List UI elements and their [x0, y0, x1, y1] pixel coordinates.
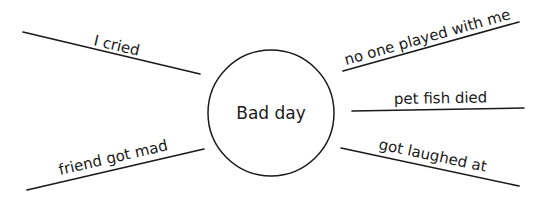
- spoke-got-laughed-at: got laughed at: [341, 135, 519, 186]
- spoke-label-pet-fish-died: pet fish died: [394, 88, 488, 108]
- spoke-i-cried: I cried: [23, 31, 200, 74]
- spoke-friend-got-mad: friend got mad: [27, 136, 204, 190]
- center-label: Bad day: [236, 103, 306, 123]
- spoke-label-i-cried: I cried: [92, 31, 141, 59]
- spoke-label-no-one-played: no one played with me: [342, 5, 512, 69]
- spoke-label-friend-got-mad: friend got mad: [57, 136, 170, 179]
- spoke-label-got-laughed-at: got laughed at: [377, 135, 488, 175]
- spoke-pet-fish-died: pet fish died: [352, 88, 524, 111]
- bad-day-spider-map: Bad day I cried no one played with me pe…: [0, 0, 543, 203]
- spoke-no-one-played: no one played with me: [342, 5, 519, 71]
- spoke-line-pet-fish-died: [352, 108, 524, 111]
